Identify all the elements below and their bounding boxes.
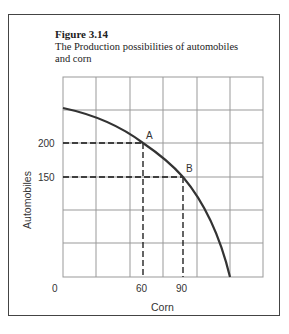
x-tick-90: 90: [176, 283, 188, 294]
point-b-label: B: [186, 163, 193, 174]
ppf-chart: A B 200 150 0 60 90 Corn Automobiles: [0, 0, 289, 334]
x-axis-label: Corn: [151, 301, 174, 313]
origin-label: 0: [52, 283, 58, 294]
y-tick-200: 200: [38, 138, 55, 149]
point-a-label: A: [146, 130, 153, 141]
y-axis-label: Automobiles: [21, 171, 33, 229]
y-tick-150: 150: [38, 172, 55, 183]
x-tick-60: 60: [136, 283, 148, 294]
